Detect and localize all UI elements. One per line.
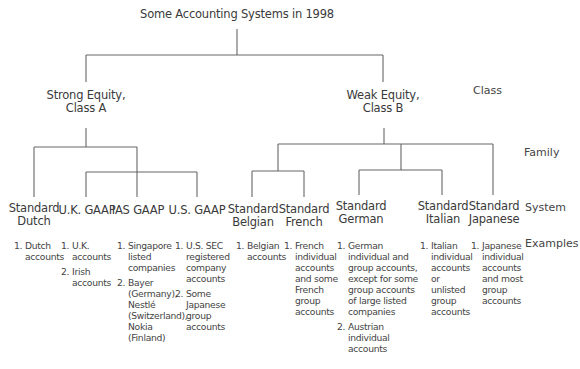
examples-german: 1.German individual and group accounts, … [337, 240, 418, 358]
example-number: 2. [61, 266, 69, 277]
example-number: 1. [337, 240, 345, 251]
example-item: 1.Japanese individual accounts and most … [471, 240, 524, 306]
system-node-dutch: Standard Dutch [4, 202, 64, 228]
example-number: 1. [284, 240, 292, 251]
system-node-german: Standard German [333, 200, 389, 226]
example-item: 1.Belgian accounts [236, 240, 286, 262]
system-node-uk-gaap: U.K. GAAP [56, 204, 118, 217]
example-number: 1. [175, 240, 183, 251]
example-number: 1. [61, 240, 69, 251]
example-item: 2.Irish accounts [61, 266, 111, 288]
level-label-examples: Examples [525, 237, 578, 250]
example-text: Belgian accounts [247, 240, 286, 262]
system-node-italian: Standard Italian [415, 200, 471, 226]
examples-belgian: 1.Belgian accounts [236, 240, 286, 266]
system-japanese-line2: Japanese [465, 213, 523, 226]
example-text: Italian individual accounts or unlisted … [431, 240, 473, 317]
example-text: Irish accounts [72, 266, 111, 288]
system-dutch-line2: Dutch [4, 215, 64, 228]
system-italian-line2: Italian [415, 213, 471, 226]
example-number: 2. [175, 288, 183, 299]
example-text: Some Japanese group accounts [186, 288, 230, 332]
example-number: 1. [236, 240, 244, 251]
example-item: 1.Dutch accounts [14, 240, 64, 262]
example-text: Dutch accounts [25, 240, 64, 262]
example-number: 1. [420, 240, 428, 251]
class-b-line2: Class B [333, 102, 433, 115]
example-number: 1. [471, 240, 479, 251]
system-node-japanese: Standard Japanese [465, 200, 523, 226]
class-node-a: Strong Equity, Class A [36, 89, 136, 115]
example-item: 1.U.S. SEC registered company accounts [175, 240, 230, 284]
example-number: 2. [337, 321, 345, 332]
examples-italian: 1.Italian individual accounts or unliste… [420, 240, 473, 321]
examples-french: 1.French individual accounts and some Fr… [284, 240, 338, 321]
example-text: French individual accounts and some Fren… [295, 240, 338, 317]
class-a-line2: Class A [36, 102, 136, 115]
example-item: 1.U.K. accounts [61, 240, 111, 262]
system-german-line2: German [333, 213, 389, 226]
example-text: U.S. SEC registered company accounts [186, 240, 230, 284]
example-item: 1.German individual and group accounts, … [337, 240, 418, 317]
example-item: 2.Some Japanese group accounts [175, 288, 230, 332]
example-text: German individual and group accounts, ex… [348, 240, 418, 317]
example-text: Japanese individual accounts and most gr… [482, 240, 524, 306]
system-node-french: Standard French [276, 203, 332, 229]
example-number: 2. [117, 277, 125, 288]
level-label-class: Class [473, 84, 502, 97]
examples-uk-gaap: 1.U.K. accounts 2.Irish accounts [61, 240, 111, 292]
system-ias-line1: IAS GAAP [110, 204, 166, 217]
example-item: 1.French individual accounts and some Fr… [284, 240, 338, 317]
system-node-belgian: Standard Belgian [225, 203, 281, 229]
system-uk-line1: U.K. GAAP [56, 204, 118, 217]
system-belgian-line2: Belgian [225, 216, 281, 229]
class-node-b: Weak Equity, Class B [333, 89, 433, 115]
system-us-line1: U.S. GAAP [166, 204, 228, 217]
example-number: 1. [117, 240, 125, 251]
level-label-family: Family [524, 146, 559, 159]
example-item: 1.Italian individual accounts or unliste… [420, 240, 473, 317]
example-number: 1. [14, 240, 22, 251]
examples-japanese: 1.Japanese individual accounts and most … [471, 240, 524, 310]
system-node-ias-gaap: IAS GAAP [110, 204, 166, 217]
level-label-system: System [525, 201, 566, 214]
example-text: Austrian individual accounts [348, 321, 418, 354]
diagram-title: Some Accounting Systems in 1998 [137, 8, 337, 21]
examples-dutch: 1.Dutch accounts [14, 240, 64, 266]
examples-us-gaap: 1.U.S. SEC registered company accounts 2… [175, 240, 230, 336]
example-text: U.K. accounts [72, 240, 111, 262]
system-node-us-gaap: U.S. GAAP [166, 204, 228, 217]
system-french-line2: French [276, 216, 332, 229]
example-item: 2.Austrian individual accounts [337, 321, 418, 354]
